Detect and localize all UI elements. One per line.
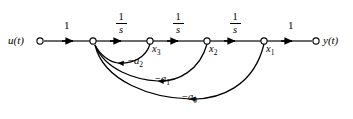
feedback-label-a2-sub: 2 [139,60,143,69]
integrator-numerator-2: 1 [169,11,187,22]
input-node-label: u(t) [8,35,24,46]
state-label-x1-sub: 1 [271,48,275,57]
state-label-x2: x2 [209,44,217,55]
gain-label-output: 1 [288,20,294,31]
state-label-x3: x3 [152,44,160,55]
gain-label-integrator-1: 1 s [112,11,130,35]
state-label-x3-sub: 3 [157,48,161,57]
output-node-label: y(t) [323,35,338,46]
integrator-numerator-1: 1 [112,11,130,22]
feedback-arc-a0 [190,44,264,99]
state-label-x3-base: x [152,43,157,54]
state-label-x2-base: x [209,43,214,54]
integrator-denominator-1: s [112,24,130,35]
feedback-arcs [95,44,264,99]
node-sum [90,38,96,44]
gain-label-input: 1 [64,20,70,31]
feedback-label-a0-sub: 0 [193,96,197,105]
gain-label-integrator-2: 1 s [169,11,187,35]
state-label-x1: x1 [266,44,274,55]
state-label-x1-base: x [266,43,271,54]
feedback-label-a1-sub: 1 [166,78,170,87]
feedback-arc-a0-tail [95,45,190,99]
integrator-numerator-3: 1 [226,11,244,22]
feedback-label-a1: −a1 [155,74,170,85]
node-u [37,38,43,44]
integrator-denominator-3: s [226,24,244,35]
feedback-label-a0: −a0 [182,92,197,103]
node-y [313,38,319,44]
signal-flow-graph-figure: u(t) y(t) 1 1 1 s 1 s 1 s x3 x2 x1 −a2 −… [0,0,353,119]
feedback-label-a2: −a2 [128,56,143,67]
integrator-denominator-2: s [169,24,187,35]
gain-label-integrator-3: 1 s [226,11,244,35]
state-label-x2-sub: 2 [214,48,218,57]
